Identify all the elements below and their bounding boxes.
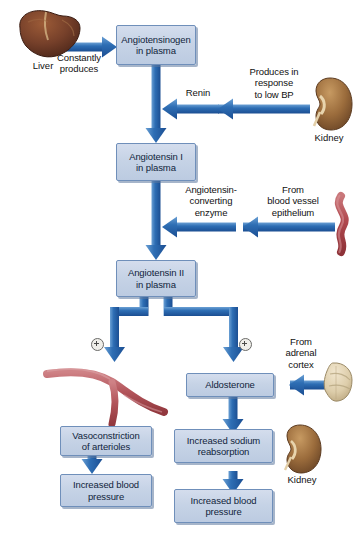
kidney-bottom-icon xyxy=(285,425,321,473)
plus-sign-right-icon xyxy=(239,338,252,351)
node-increased-bp-left-line1: Increased blood xyxy=(73,479,139,490)
edge-label-from-blood-vessel-line2: blood vessel xyxy=(267,195,319,206)
arrow-angiotensin2-to-vasoconstriction xyxy=(104,297,149,362)
node-angiotensin-1[interactable]: Angiotensin I in plasma xyxy=(116,143,196,181)
arrow-blood-vessel-ace xyxy=(162,217,335,238)
plus-sign-left-icon xyxy=(91,338,104,351)
organ-caption-kidney-top-text: Kidney xyxy=(314,132,343,143)
edge-label-produces-low-bp-line1: Produces in xyxy=(249,66,298,77)
organ-caption-kidney-top: Kidney xyxy=(306,132,352,143)
organ-caption-liver-text: Liver xyxy=(33,60,54,71)
edge-label-renin: Renin xyxy=(178,87,218,98)
node-vasoconstriction-line1: Vasoconstriction xyxy=(72,430,139,441)
edge-label-from-adrenal-cortex-line2: adrenal xyxy=(286,347,317,358)
edge-label-ace-line3: enzyme xyxy=(195,207,228,218)
edge-label-produces-low-bp-line2: response xyxy=(255,77,293,88)
artery-icon xyxy=(47,369,164,424)
node-sodium-reabsorption-line2: reabsorption xyxy=(198,446,250,457)
edge-label-renin-text: Renin xyxy=(186,87,210,98)
node-angiotensin-2-line2: in plasma xyxy=(136,279,176,290)
node-vasoconstriction-line2: of arterioles xyxy=(82,441,130,452)
edge-label-from-adrenal-cortex-line3: cortex xyxy=(288,359,313,370)
kidney-top-icon xyxy=(314,78,352,130)
node-angiotensinogen-line2: in plasma xyxy=(136,45,176,56)
node-sodium-reabsorption-line1: Increased sodium xyxy=(187,435,260,446)
node-angiotensinogen[interactable]: Angiotensinogen in plasma xyxy=(116,25,196,65)
node-angiotensin-2-line1: Angiotensin II xyxy=(128,267,184,278)
edge-label-from-blood-vessel: From blood vessel epithelium xyxy=(253,184,333,218)
diagram-canvas: Angiotensinogen in plasma Angiotensin I … xyxy=(0,0,355,534)
node-increased-bp-left-line2: pressure xyxy=(88,491,124,502)
edge-label-produces-low-bp-line3: to low BP xyxy=(254,89,293,100)
edge-label-from-blood-vessel-line1: From xyxy=(282,184,304,195)
edge-label-from-adrenal-cortex: From adrenal cortex xyxy=(270,336,332,370)
node-vasoconstriction[interactable]: Vasoconstriction of arterioles xyxy=(60,426,152,456)
node-angiotensin-1-line2: in plasma xyxy=(136,162,176,173)
organ-caption-kidney-bottom: Kidney xyxy=(279,474,325,485)
node-increased-bp-right-line1: Increased blood xyxy=(190,495,256,506)
edge-label-ace-line1: Angiotensin- xyxy=(185,184,237,195)
edge-label-produces-low-bp: Produces in response to low BP xyxy=(234,66,314,100)
node-aldosterone-label: Aldosterone xyxy=(205,379,255,391)
node-sodium-reabsorption[interactable]: Increased sodium reabsorption xyxy=(174,429,273,463)
node-increased-bp-right-line2: pressure xyxy=(205,506,241,517)
organ-caption-kidney-bottom-text: Kidney xyxy=(287,474,316,485)
edge-label-ace-line2: converting xyxy=(190,195,233,206)
blood-vessel-icon xyxy=(337,196,345,252)
node-angiotensin-1-line1: Angiotensin I xyxy=(129,151,183,162)
arrow-kidney-renin xyxy=(162,99,310,120)
node-increased-bp-left[interactable]: Increased blood pressure xyxy=(60,474,152,507)
node-increased-bp-right[interactable]: Increased blood pressure xyxy=(174,489,273,523)
node-angiotensinogen-line1: Angiotensinogen xyxy=(121,34,190,45)
node-angiotensin-2[interactable]: Angiotensin II in plasma xyxy=(116,260,196,297)
arrow-angiotensin1-to-angiotensin2 xyxy=(146,181,167,260)
arrow-angiotensinogen-to-angiotensin1 xyxy=(146,65,167,143)
arrow-angiotensin2-to-aldosterone xyxy=(164,297,245,362)
node-aldosterone[interactable]: Aldosterone xyxy=(186,373,274,397)
edge-label-ace: Angiotensin- converting enzyme xyxy=(176,184,246,218)
edge-label-from-adrenal-cortex-line1: From xyxy=(290,336,312,347)
edge-label-from-blood-vessel-line3: epithelium xyxy=(272,207,314,218)
organ-caption-liver: Liver xyxy=(20,60,66,71)
